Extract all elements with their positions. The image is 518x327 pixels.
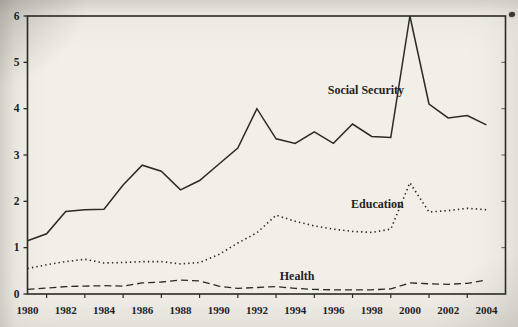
x-axis-label: 2000 <box>399 304 422 316</box>
series-label-social-security: Social Security <box>328 83 404 97</box>
scanned-chart-page: 0123456198019821984198619881990199219941… <box>0 0 518 327</box>
x-axis-label: 1980 <box>17 304 40 316</box>
x-axis-label: 1992 <box>246 304 269 316</box>
x-axis-label: 1998 <box>361 304 384 316</box>
x-axis-label: 1986 <box>131 304 154 316</box>
y-axis-label: 2 <box>14 195 20 207</box>
y-axis-label: 4 <box>14 102 20 114</box>
x-axis-label: 1996 <box>322 304 345 316</box>
x-axis-label: 1990 <box>208 304 231 316</box>
plot-frame <box>28 16 506 294</box>
y-axis-label: 0 <box>14 288 20 300</box>
series-label-education: Education <box>351 197 404 211</box>
series-line-social-security <box>28 16 487 241</box>
x-axis-label: 1984 <box>93 304 116 316</box>
y-axis-label: 6 <box>14 10 20 22</box>
series-line-health <box>28 280 487 290</box>
x-axis-label: 1988 <box>169 304 192 316</box>
x-axis-label: 1982 <box>55 304 78 316</box>
y-axis-label: 1 <box>14 241 20 253</box>
x-axis-label: 2004 <box>475 304 498 316</box>
y-axis-label: 5 <box>14 56 20 68</box>
line-chart: 0123456198019821984198619881990199219941… <box>0 0 518 327</box>
y-axis-label: 3 <box>14 149 20 161</box>
series-label-health: Health <box>280 269 315 283</box>
series-line-education <box>28 183 487 269</box>
x-axis-label: 2002 <box>437 304 460 316</box>
x-axis-label: 1994 <box>284 304 307 316</box>
